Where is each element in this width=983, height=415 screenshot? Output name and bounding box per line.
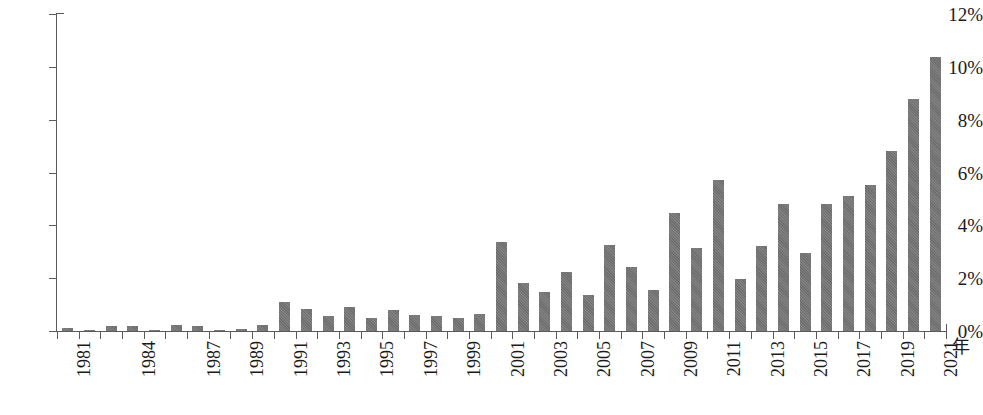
bar: [843, 196, 854, 331]
x-axis-tick: [122, 332, 123, 339]
x-axis-tick: [382, 332, 383, 339]
x-axis-tick: [838, 332, 839, 339]
y-axis-tick: [49, 14, 57, 15]
x-axis-tick-label: 2007: [639, 341, 657, 377]
bar: [344, 307, 355, 331]
bar: [604, 245, 615, 331]
x-axis-tick-label: 1993: [335, 341, 353, 377]
x-axis-tick-label: 2017: [855, 341, 873, 377]
bar: [583, 295, 594, 331]
x-axis-tick: [361, 332, 362, 339]
y-axis-tick: [49, 67, 57, 68]
x-axis-tick: [577, 332, 578, 339]
bar: [279, 302, 290, 331]
x-axis-tick: [252, 332, 253, 339]
bar: [865, 185, 876, 331]
x-axis-tick: [79, 332, 80, 339]
x-axis-tick: [707, 332, 708, 339]
bar: [713, 180, 724, 331]
bar-chart: 0%2%4%6%8%10%12% 19811984198719891991199…: [0, 0, 983, 415]
x-axis-tick: [599, 332, 600, 339]
x-axis-tick: [794, 332, 795, 339]
x-axis-tick: [230, 332, 231, 339]
bar: [648, 290, 659, 331]
x-axis-tick-label: 2011: [725, 341, 743, 376]
x-axis-line: [56, 331, 947, 332]
x-axis-tick-label: 1991: [292, 341, 310, 377]
bar: [930, 57, 941, 331]
bar: [214, 330, 225, 332]
bar: [84, 330, 95, 332]
bar: [908, 99, 919, 331]
x-axis-tick-label: 1997: [422, 341, 440, 377]
x-axis-tick: [404, 332, 405, 339]
x-axis-tick: [773, 332, 774, 339]
bar: [669, 213, 680, 331]
x-axis-tick: [729, 332, 730, 339]
bar: [62, 328, 73, 331]
bar: [453, 318, 464, 331]
x-axis-tick: [100, 332, 101, 339]
x-axis-tick: [642, 332, 643, 339]
x-axis-tick-label: 1984: [140, 341, 158, 377]
x-axis-tick-label: 2001: [509, 341, 527, 377]
y-axis-tick: [49, 173, 57, 174]
x-axis-tick: [881, 332, 882, 339]
bar: [192, 326, 203, 331]
x-axis-tick: [556, 332, 557, 339]
bar: [236, 329, 247, 331]
x-axis-tick: [664, 332, 665, 339]
bar: [409, 315, 420, 331]
x-axis-tick-label: 2009: [682, 341, 700, 377]
bar: [886, 151, 897, 331]
y-axis-tick: [49, 120, 57, 121]
bar: [539, 292, 550, 331]
x-axis-tick-label: 2013: [769, 341, 787, 377]
y-axis-tick: [49, 331, 57, 332]
x-axis-tick: [621, 332, 622, 339]
x-axis-tick: [144, 332, 145, 339]
x-axis-tick: [534, 332, 535, 339]
bars-container: [57, 14, 946, 331]
bar: [388, 310, 399, 331]
x-axis-tick-label: 2005: [595, 341, 613, 377]
x-axis-tick: [512, 332, 513, 339]
figure-caption: [0, 404, 983, 415]
bar: [106, 326, 117, 331]
x-axis-tick-label: 1989: [248, 341, 266, 377]
x-axis-tick: [209, 332, 210, 339]
y-axis-tick: [49, 225, 57, 226]
x-axis-tick: [296, 332, 297, 339]
bar: [756, 246, 767, 331]
x-axis-tick: [317, 332, 318, 339]
x-axis-tick: [274, 332, 275, 339]
bar: [778, 204, 789, 331]
x-axis-tick-label: 2019: [899, 341, 917, 377]
bar: [301, 309, 312, 331]
x-axis-tick-label: 1999: [465, 341, 483, 377]
x-axis-tick-label: 1987: [205, 341, 223, 377]
bar: [518, 283, 529, 331]
y-axis-tick: [49, 278, 57, 279]
bar: [127, 326, 138, 331]
x-axis-tick: [924, 332, 925, 339]
x-axis-tick: [816, 332, 817, 339]
x-axis-tick: [491, 332, 492, 339]
x-axis-tick-label: 2003: [552, 341, 570, 377]
x-axis-tick: [165, 332, 166, 339]
x-axis-title: 年: [952, 338, 970, 356]
bar: [496, 242, 507, 331]
x-axis-tick-label: 1981: [75, 341, 93, 377]
x-axis-tick-label: 2015: [812, 341, 830, 377]
bar: [735, 279, 746, 331]
x-axis-tick: [187, 332, 188, 339]
x-axis-tick-label: 1995: [378, 341, 396, 377]
x-axis-tick: [57, 332, 58, 339]
x-axis-tick: [751, 332, 752, 339]
bar: [171, 325, 182, 331]
bar: [626, 267, 637, 331]
bar: [800, 253, 811, 331]
x-axis-tick: [859, 332, 860, 339]
bar: [561, 272, 572, 331]
bar: [257, 325, 268, 331]
